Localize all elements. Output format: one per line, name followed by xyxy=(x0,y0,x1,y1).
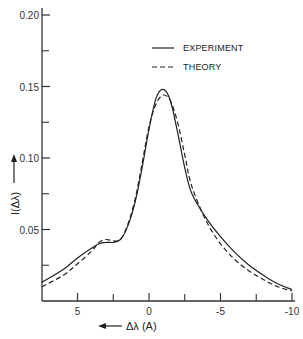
y-tick-label: 0.05 xyxy=(20,225,40,236)
y-axis-title: I(Δλ) xyxy=(9,192,21,215)
x-axis-title: Δλ (A) xyxy=(126,320,157,332)
x-tick-label: -10 xyxy=(285,306,300,317)
x-axis-arrowhead-icon xyxy=(98,323,106,329)
x-tick-label: 5 xyxy=(75,306,81,317)
line-chart: 0.050.100.150.20 50-5-10 EXPERIMENT THEO… xyxy=(0,0,303,339)
x-tick-label: 0 xyxy=(146,306,152,317)
x-axis-title-group: Δλ (A) xyxy=(98,320,157,332)
y-tick-label: 0.20 xyxy=(20,10,40,21)
series-group xyxy=(42,89,292,291)
y-tick-label: 0.15 xyxy=(20,82,40,93)
series-theory-line xyxy=(42,95,292,291)
y-tick-label: 0.10 xyxy=(20,153,40,164)
legend-label-theory: THEORY xyxy=(183,62,222,72)
x-tick-label: -5 xyxy=(216,306,225,317)
legend-label-experiment: EXPERIMENT xyxy=(183,43,244,53)
x-ticks: 50-5-10 xyxy=(75,293,300,317)
y-ticks: 0.050.100.150.20 xyxy=(20,10,50,265)
y-axis-arrowhead-icon xyxy=(11,154,17,162)
series-experiment-line xyxy=(42,89,292,289)
legend: EXPERIMENT THEORY xyxy=(152,43,244,72)
